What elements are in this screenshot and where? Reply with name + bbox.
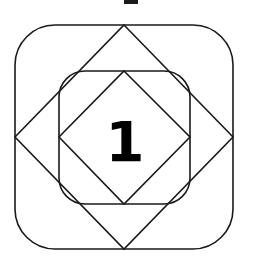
center-number-label: 1: [106, 109, 145, 174]
top-mark: [124, 0, 138, 4]
nested-shapes-diagram: 1: [0, 0, 254, 274]
